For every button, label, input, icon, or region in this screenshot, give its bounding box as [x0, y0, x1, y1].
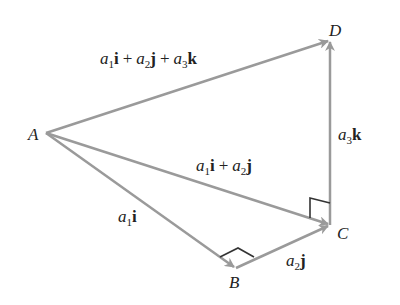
vector-label-a-to-c: a1i+a2j [196, 157, 252, 174]
point-label-d: D [329, 22, 341, 39]
point-label-a: A [28, 126, 38, 143]
diagram-graphics [0, 0, 400, 305]
point-label-b: B [229, 274, 239, 291]
vector-diagram: A B C D a1i+a2j+a3k a1i+a2j a3k a1i a2j [0, 0, 400, 305]
vector-label-b-to-c: a2j [286, 252, 306, 269]
vector-label-c-to-d: a3k [338, 126, 361, 143]
vector-b-to-c [236, 226, 328, 268]
vector-label-a-to-d: a1i+a2j+a3k [100, 50, 197, 67]
right-angle-mark-b [220, 248, 254, 257]
vector-label-a-to-b: a1i [118, 208, 137, 225]
right-angle-mark-c [310, 198, 330, 218]
point-label-c: C [337, 225, 348, 242]
vector-a-to-c [46, 133, 328, 224]
vector-a-to-b [46, 133, 234, 267]
